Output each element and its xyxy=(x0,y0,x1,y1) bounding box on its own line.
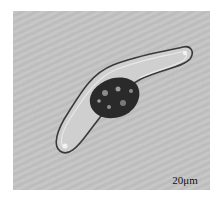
diatom-cell xyxy=(13,11,210,190)
scale-bar-label: 20μm xyxy=(163,174,207,186)
pole-highlight xyxy=(183,51,187,55)
pole-highlight xyxy=(63,144,68,149)
micrograph-frame: 20μm xyxy=(13,11,210,190)
